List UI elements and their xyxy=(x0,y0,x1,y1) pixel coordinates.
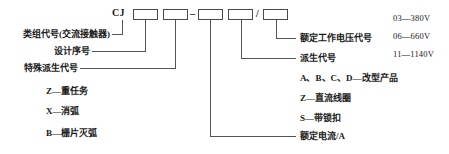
leader-line-derivative-vertical xyxy=(241,20,242,58)
code-box-rated-voltage xyxy=(263,9,288,20)
label-rated-current-per-amp: 额定电流/A xyxy=(300,131,345,142)
code-box-special-derivative xyxy=(163,9,188,20)
leader-line-rated-voltage-vertical xyxy=(276,20,277,38)
label-z-heavy-duty: Z—重任务 xyxy=(46,86,88,97)
code-box-design-series xyxy=(133,9,158,20)
label-s-with-latch: S—带锁扣 xyxy=(300,113,341,124)
model-code-row: CJ – / xyxy=(0,0,449,26)
label-rated-working-voltage-code: 额定工作电压代号 xyxy=(300,33,372,44)
label-design-series-number: 设计序号 xyxy=(2,46,90,57)
leader-line-class-group-horizontal xyxy=(112,34,123,35)
leader-line-design-series-vertical xyxy=(145,20,146,51)
label-z-dc-coil: Z—直流线圈 xyxy=(300,93,351,104)
label-b-grid-arc-quenching: B—栅片灭弧 xyxy=(46,128,97,139)
code-box-derivative xyxy=(228,9,253,20)
leader-line-class-group-vertical xyxy=(122,20,123,34)
label-special-derivative-code: 特殊派生代号 xyxy=(2,63,78,74)
model-code-breakdown-diagram: CJ – / 类组代号(交流接触器) 设计序号 特殊派生代号 Z—重任务 X—消… xyxy=(0,0,449,154)
code-box-rated-current xyxy=(198,9,223,20)
label-derivative-code: 派生代号 xyxy=(300,53,336,64)
model-prefix-cj: CJ xyxy=(112,7,125,18)
leader-line-rated-voltage-horizontal xyxy=(276,38,296,39)
label-abcd-modified-product: A、B、C、D—改型产品 xyxy=(300,73,398,84)
voltage-code-11-1140v: 11—1140V xyxy=(393,49,434,60)
leader-line-rated-current-vertical xyxy=(210,20,211,136)
label-x-arc-extinguishing: X—消弧 xyxy=(46,106,80,117)
leader-line-special-derivative-vertical xyxy=(175,20,176,68)
model-separator-dash: – xyxy=(190,8,195,20)
voltage-code-03-380v: 03—380V xyxy=(393,13,430,24)
label-class-group-code: 类组代号(交流接触器) xyxy=(2,29,110,40)
leader-line-derivative-horizontal xyxy=(241,58,296,59)
model-separator-slash: / xyxy=(256,8,259,20)
voltage-code-06-660v: 06—660V xyxy=(393,31,430,42)
leader-line-design-series-horizontal xyxy=(92,51,146,52)
leader-line-rated-current-horizontal xyxy=(210,136,296,137)
leader-line-special-derivative-horizontal xyxy=(80,68,176,69)
